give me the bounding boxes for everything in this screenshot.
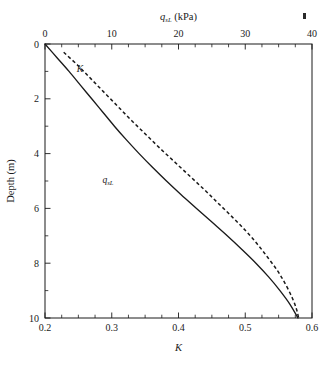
bottom-tick-label: 0.2	[39, 322, 52, 333]
left-axis-title: Depth (m)	[5, 159, 17, 203]
left-tick-label: 4	[34, 148, 39, 159]
bottom-tick-label: 0.5	[239, 322, 252, 333]
bottom-axis-title: K	[174, 342, 183, 353]
top-tick-label: 0	[43, 28, 48, 39]
top-axis-title-unit: (kPa)	[172, 11, 198, 23]
bottom-axis-tick-labels: 0.2 0.3 0.4 0.5 0.6	[39, 322, 319, 333]
top-axis-title: qsL (kPa)	[160, 11, 197, 23]
bottom-tick-label: 0.6	[306, 322, 319, 333]
top-tick-label: 30	[240, 28, 250, 39]
bottom-tick-label: 0.4	[172, 322, 185, 333]
plot-frame	[45, 44, 312, 318]
svg-text:qsL (kPa): qsL (kPa)	[160, 11, 197, 23]
figure-container: 0 10 20 30 40 0.2 0.3 0.4 0.5 0.6 0 2 4 …	[0, 0, 336, 372]
top-tick-label: 20	[174, 28, 184, 39]
top-axis-tick-labels: 0 10 20 30 40	[43, 28, 318, 39]
chart-plot: 0 10 20 30 40 0.2 0.3 0.4 0.5 0.6 0 2 4 …	[0, 0, 336, 372]
top-tick-label: 10	[107, 28, 117, 39]
left-tick-label: 0	[34, 39, 39, 50]
curve-label-qsl-sub: sL	[107, 179, 114, 186]
left-tick-label: 8	[34, 258, 39, 269]
left-tick-label: 2	[34, 93, 39, 104]
curve-label-k: K	[76, 64, 84, 74]
top-tick-label: 40	[307, 28, 317, 39]
top-axis-major-ticks	[45, 44, 312, 50]
left-tick-label: 10	[29, 313, 39, 324]
left-axis-tick-labels: 0 2 4 6 8 10	[29, 39, 39, 324]
bottom-tick-label: 0.3	[106, 322, 119, 333]
series-line-k	[64, 52, 299, 318]
left-tick-label: 6	[34, 203, 39, 214]
series-line-qsl	[45, 44, 298, 318]
curve-label-qsl: qsL	[103, 175, 114, 186]
speck-mark	[303, 13, 306, 19]
bottom-axis-major-ticks	[45, 313, 312, 319]
